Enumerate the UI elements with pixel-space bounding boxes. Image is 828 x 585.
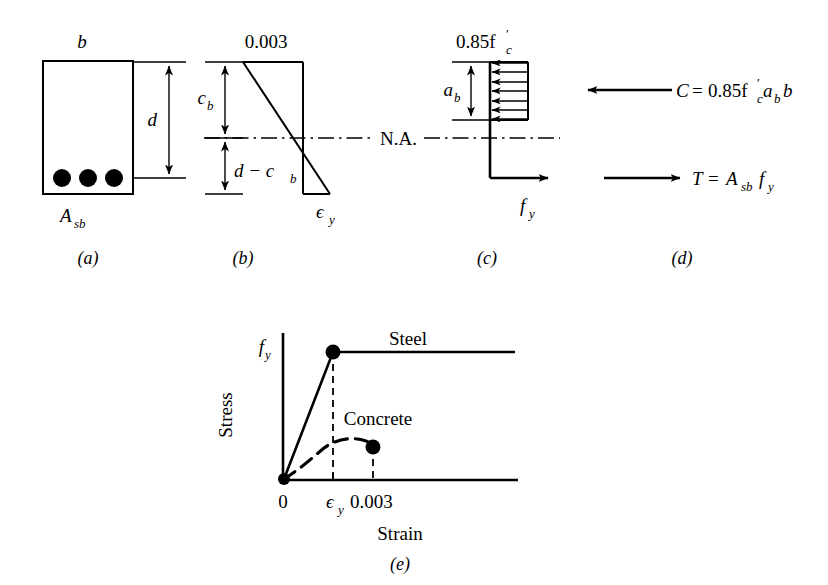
tension-expr-f-sub: y bbox=[766, 179, 774, 194]
concrete-stress-value: 0.85f bbox=[456, 31, 496, 52]
panel-label-e: (e) bbox=[390, 554, 410, 575]
figure-page: b A sb d (a) 0.003 bbox=[0, 0, 828, 585]
concrete-stress-label: 0.85f c ′ bbox=[456, 26, 512, 57]
tension-equals: = bbox=[708, 168, 719, 189]
x-tick-label-yield-strain: ϵ y bbox=[326, 491, 344, 517]
d-minus-cb-dimension: d − c b bbox=[205, 142, 297, 194]
tension-force-symbol: T bbox=[692, 168, 704, 189]
cb-dimension: c b bbox=[198, 62, 243, 138]
x-tick-yield-subscript: y bbox=[336, 502, 344, 517]
panel-b-strain: 0.003 c b d − c b N.A. bbox=[198, 31, 417, 269]
panel-label-d: (d) bbox=[672, 248, 693, 269]
panel-label-c: (c) bbox=[477, 248, 497, 269]
panel-label-b: (b) bbox=[233, 248, 254, 269]
top-strain-label: 0.003 bbox=[245, 31, 288, 52]
compression-arrow-group bbox=[492, 63, 528, 119]
steel-area-label: A sb bbox=[58, 205, 86, 231]
x-axis-title: Strain bbox=[377, 523, 423, 544]
rebar-dot bbox=[53, 169, 71, 187]
panel-label-a: (a) bbox=[78, 248, 99, 269]
x-tick-label-ultimate: 0.003 bbox=[350, 491, 393, 512]
compression-expr-lead: 0.85f bbox=[708, 80, 748, 101]
compression-equals: = bbox=[692, 80, 703, 101]
rebar-dot bbox=[105, 169, 123, 187]
engineering-figure: b A sb d (a) 0.003 bbox=[0, 0, 828, 585]
tension-expr-A-sub: sb bbox=[741, 179, 753, 194]
compression-force-symbol: C bbox=[676, 80, 689, 101]
cb-label: c bbox=[198, 87, 207, 108]
rebar-dot bbox=[79, 169, 97, 187]
compression-force-equation: C = 0.85f c ′ a b b bbox=[676, 75, 793, 106]
panel-a-cross-section: b A sb d (a) bbox=[43, 31, 186, 269]
concrete-stress-subscript: c bbox=[506, 42, 512, 57]
steel-stress-symbol: f bbox=[520, 195, 528, 216]
yield-strain-label: ϵ y bbox=[316, 201, 335, 227]
d-minus-cb-label: d − c bbox=[234, 160, 275, 181]
concrete-series-annotation: Concrete bbox=[344, 408, 413, 429]
steel-area-subscript: sb bbox=[74, 216, 86, 231]
steel-series-annotation: Steel bbox=[389, 328, 427, 349]
compression-expr-a-sub: b bbox=[774, 91, 781, 106]
steel-area-symbol: A bbox=[58, 205, 72, 226]
ab-subscript: b bbox=[454, 90, 461, 105]
compression-expr-prime: ′ bbox=[757, 75, 760, 90]
x-tick-yield-symbol: ϵ bbox=[326, 491, 335, 512]
compression-expr-a: a bbox=[763, 80, 773, 101]
yield-strain-symbol: ϵ bbox=[316, 201, 325, 222]
panel-d-forces: C = 0.85f c ′ a b b T = A sb f y (d) bbox=[588, 75, 793, 269]
panel-c-stress-block: 0.85f c ′ bbox=[424, 26, 560, 269]
compression-expr-b: b bbox=[783, 80, 793, 101]
yield-strain-subscript: y bbox=[327, 212, 335, 227]
d-minus-cb-subscript: b bbox=[290, 171, 297, 186]
cb-subscript: b bbox=[207, 98, 214, 113]
tension-expr-f: f bbox=[759, 168, 767, 189]
y-tick-label-fy: f y bbox=[259, 336, 271, 362]
steel-stress-label: f y bbox=[520, 195, 535, 221]
steel-stress-subscript: y bbox=[527, 206, 535, 221]
panel-e-stress-strain-chart: Steel Concrete f y Stress 0 ϵ y 0.003 St… bbox=[215, 328, 518, 575]
concrete-stress-prime: ′ bbox=[506, 26, 509, 41]
tension-force-equation: T = A sb f y bbox=[692, 168, 774, 194]
depth-label: d bbox=[148, 109, 158, 130]
y-tick-subscript: y bbox=[263, 347, 271, 362]
ab-dimension: a b bbox=[444, 62, 491, 120]
tension-expr-A: A bbox=[724, 168, 738, 189]
y-axis-title: Stress bbox=[215, 392, 236, 437]
neutral-axis-label: N.A. bbox=[380, 128, 417, 149]
x-tick-label-zero: 0 bbox=[278, 491, 288, 512]
section-width-label: b bbox=[77, 31, 87, 52]
ab-label: a bbox=[444, 79, 454, 100]
depth-dimension: d bbox=[133, 62, 186, 178]
